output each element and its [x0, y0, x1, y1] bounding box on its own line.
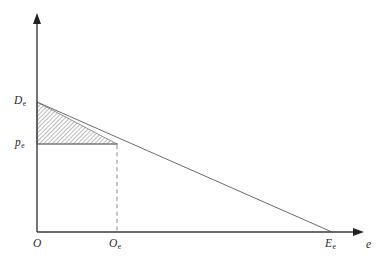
equilibrium-price-label: pe	[15, 137, 24, 149]
economics-demand-curve-figure: De pe O Oe Ee e	[0, 0, 382, 263]
figure-canvas	[0, 0, 382, 263]
demand-intercept-label: De	[14, 95, 26, 107]
equilibrium-quantity-label: Oe	[109, 238, 121, 250]
x-axis-title-label: e	[366, 239, 371, 251]
y-axis-arrow-icon	[33, 13, 41, 24]
demand-curve-line	[37, 102, 332, 232]
origin-label: O	[33, 238, 41, 250]
effort-max-label: Ee	[325, 238, 336, 250]
consumer-surplus-region	[37, 102, 117, 144]
x-axis-arrow-icon	[353, 228, 364, 236]
